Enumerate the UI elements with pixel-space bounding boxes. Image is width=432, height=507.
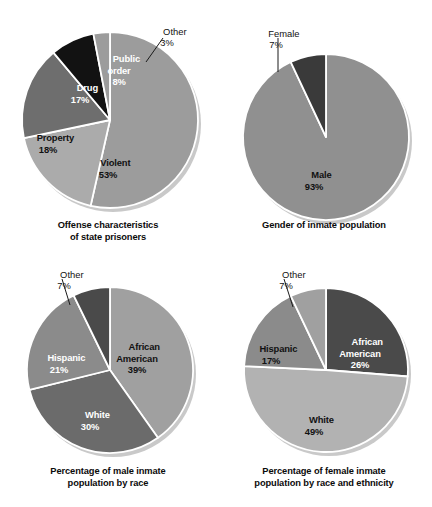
pie-chart-figure: Violent53% Property18% Drug17% Publicord… [0,0,432,507]
chart-panel-male-inmate-population-by-race: AfricanAmerican39% White30% Hispanic21% … [0,253,216,507]
chart-caption-offense-characteristics: Offense characteristicsof state prisoner… [0,219,216,243]
chart-panel-female-inmate-population-by-race-and-ethnicity: AfricanAmerican26% White49% Hispanic17% … [216,253,432,507]
chart-caption-female-inmate-population-by-race-and-ethnicity: Percentage of female inmatepopulation by… [216,465,432,489]
pie-slice-white[interactable] [244,366,408,452]
chart-panel-offense-characteristics: Violent53% Property18% Drug17% Publicord… [0,0,216,253]
pie-slice-african-american[interactable] [326,288,408,376]
chart-caption-gender-of-inmate-population: Gender of inmate population [216,219,432,231]
callout-label-other: Other3% [143,14,191,60]
callout-label-other: Other7% [262,257,310,303]
chart-caption-male-inmate-population-by-race: Percentage of male inmatepopulation by r… [0,465,216,489]
callout-label-female: Female7% [246,16,306,62]
callout-label-other: Other7% [40,257,88,303]
chart-panel-gender-of-inmate-population: Male93% Female7% Gender of inmate popula… [216,0,432,253]
